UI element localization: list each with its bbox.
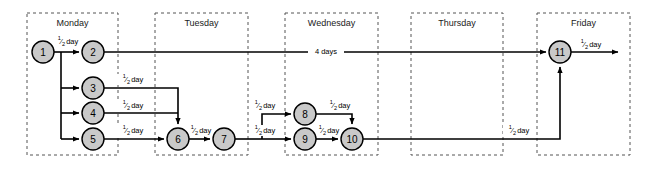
fraction-denominator: 2 — [513, 130, 516, 136]
fraction-denominator: 2 — [195, 130, 198, 136]
edge-label-2-11: 4 days — [308, 46, 344, 58]
edge-label-4-6: 1⁄2day — [117, 99, 149, 111]
edge-label-4-days: 4 days — [315, 47, 337, 56]
edge-label-unit: day — [131, 101, 143, 110]
fraction-denominator: 2 — [259, 105, 262, 111]
edge-label-3-6: 1⁄2day — [117, 73, 149, 85]
node-1[interactable]: 1 — [32, 41, 54, 63]
fraction-denominator: 2 — [334, 105, 337, 111]
day-box-friday — [537, 13, 630, 155]
edge-label-unit: day — [66, 37, 78, 46]
node-label-6: 6 — [175, 134, 181, 145]
node-11[interactable]: 11 — [549, 41, 571, 63]
node-label-7: 7 — [221, 134, 227, 145]
svg-text:1⁄2day: 1⁄2day — [509, 124, 530, 136]
node-label-11: 11 — [555, 47, 566, 58]
svg-text:1⁄2day: 1⁄2day — [191, 124, 212, 136]
node-10[interactable]: 10 — [341, 128, 363, 150]
edge-label-unit: day — [327, 126, 339, 135]
day-column-thursday: Thursday — [411, 13, 503, 155]
edge-8-to-10 — [316, 114, 352, 124]
svg-text:1⁄2day: 1⁄2day — [255, 124, 276, 136]
edge-label-9-10: 1⁄2day — [313, 124, 345, 136]
edge-label-8-10: 1⁄2day — [324, 99, 356, 111]
svg-text:1⁄2day: 1⁄2day — [581, 38, 602, 50]
node-label-2: 2 — [90, 47, 96, 58]
node-8[interactable]: 8 — [294, 103, 316, 125]
edge-label-unit: day — [199, 126, 211, 135]
svg-text:1⁄2day: 1⁄2day — [255, 99, 276, 111]
edge-label-7-9: 1⁄2day — [249, 124, 281, 136]
edge-label-unit: day — [263, 101, 275, 110]
node-label-9: 9 — [302, 134, 308, 145]
edge-label-unit: day — [263, 126, 275, 135]
svg-text:1⁄2day: 1⁄2day — [330, 99, 351, 111]
node-3[interactable]: 3 — [82, 77, 104, 99]
edge-labels-group: 1⁄2day 1⁄2day 1⁄2day 1⁄2day — [52, 35, 607, 136]
node-5[interactable]: 5 — [82, 128, 104, 150]
node-2[interactable]: 2 — [82, 41, 104, 63]
node-label-4: 4 — [90, 108, 96, 119]
day-column-monday: Monday — [27, 13, 118, 155]
node-label-10: 10 — [346, 134, 358, 145]
edge-label-unit: day — [131, 75, 143, 84]
svg-text:1⁄2day: 1⁄2day — [123, 99, 144, 111]
svg-text:1⁄2day: 1⁄2day — [58, 35, 79, 47]
node-7[interactable]: 7 — [213, 128, 235, 150]
node-4[interactable]: 4 — [82, 102, 104, 124]
fraction-denominator: 2 — [259, 130, 262, 136]
network-canvas: Monday Tuesday Wednesday Thursday Friday — [0, 0, 653, 169]
edge-label-7-8: 1⁄2day — [249, 99, 281, 111]
activity-network-diagram: Monday Tuesday Wednesday Thursday Friday — [0, 0, 653, 169]
day-label-thursday: Thursday — [438, 18, 476, 28]
fraction-denominator: 2 — [127, 130, 130, 136]
edge-label-unit: day — [131, 126, 143, 135]
day-label-monday: Monday — [56, 18, 89, 28]
node-6[interactable]: 6 — [167, 128, 189, 150]
day-label-friday: Friday — [571, 18, 597, 28]
svg-text:1⁄2day: 1⁄2day — [123, 124, 144, 136]
day-column-friday: Friday — [537, 13, 630, 155]
day-box-thursday — [411, 13, 503, 155]
node-label-8: 8 — [302, 109, 308, 120]
edge-label-unit: day — [338, 101, 350, 110]
day-label-tuesday: Tuesday — [184, 18, 219, 28]
fraction-denominator: 2 — [323, 130, 326, 136]
fraction-denominator: 2 — [127, 79, 130, 85]
fraction-denominator: 2 — [585, 44, 588, 50]
edge-label-11-end: 1⁄2day — [575, 38, 607, 50]
svg-text:1⁄2day: 1⁄2day — [319, 124, 340, 136]
day-box-monday — [27, 13, 118, 155]
edge-label-unit: day — [589, 40, 601, 49]
edge-label-unit: day — [517, 126, 529, 135]
edge-label-10-11: 1⁄2day — [503, 124, 535, 136]
nodes-group: 1 2 3 4 5 6 7 — [32, 41, 571, 150]
day-label-wednesday: Wednesday — [308, 18, 356, 28]
svg-text:1⁄2day: 1⁄2day — [123, 73, 144, 85]
node-label-3: 3 — [90, 83, 96, 94]
edge-label-5-6: 1⁄2day — [117, 124, 149, 136]
edge-label-1-2: 1⁄2day — [52, 35, 84, 47]
node-9[interactable]: 9 — [294, 128, 316, 150]
fraction-denominator: 2 — [62, 41, 65, 47]
fraction-denominator: 2 — [127, 105, 130, 111]
node-label-5: 5 — [90, 134, 96, 145]
edge-label-6-7: 1⁄2day — [185, 124, 217, 136]
node-label-1: 1 — [40, 47, 46, 58]
